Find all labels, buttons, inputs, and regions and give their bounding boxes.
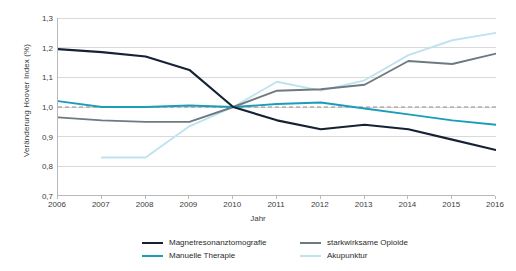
x-tick-label: 2015	[442, 200, 460, 209]
x-tick-mark	[407, 196, 408, 199]
x-tick-mark	[495, 196, 496, 199]
x-tick-label: 2009	[179, 200, 197, 209]
series-line	[58, 49, 496, 150]
x-tick-mark	[320, 196, 321, 199]
x-tick-label: 2011	[267, 200, 284, 209]
x-axis-ticks: 2006200720082009201020112012201320142015…	[57, 196, 495, 216]
x-tick-label: 2008	[136, 200, 154, 209]
x-tick-mark	[364, 196, 365, 199]
y-tick-label: 1,3	[42, 14, 53, 23]
series-line	[58, 54, 496, 122]
legend-item[interactable]: Akupunktur	[300, 249, 408, 262]
legend-item-label: Akupunktur	[327, 252, 367, 260]
legend-item-label: Magnetresonanztomografie	[169, 239, 266, 247]
x-tick-label: 2006	[48, 200, 66, 209]
x-tick-mark	[188, 196, 189, 199]
x-tick-mark	[57, 196, 58, 199]
legend-swatch-icon	[300, 242, 321, 244]
y-tick-label: 1,2	[42, 43, 53, 52]
y-tick-label: 1,1	[42, 73, 53, 82]
chart-legend: MagnetresonanztomografieManuelle Therapi…	[0, 236, 516, 266]
series-line	[102, 33, 496, 158]
legend-item-label: starkwirksame Opioide	[327, 239, 408, 247]
legend-swatch-icon	[142, 242, 163, 244]
y-tick-label: 1,0	[42, 103, 53, 112]
x-tick-mark	[101, 196, 102, 199]
x-tick-label: 2016	[486, 200, 504, 209]
legend-column-left: MagnetresonanztomografieManuelle Therapi…	[142, 236, 266, 262]
plot-area	[57, 18, 495, 196]
legend-item-label: Manuelle Therapie	[169, 252, 235, 260]
x-tick-mark	[145, 196, 146, 199]
x-tick-label: 2013	[355, 200, 373, 209]
legend-item[interactable]: starkwirksame Opioide	[300, 236, 408, 249]
chart-container: Veränderung Hoover Index (%) 1,31,21,11,…	[0, 0, 516, 271]
x-tick-mark	[276, 196, 277, 199]
legend-swatch-icon	[300, 255, 321, 257]
y-tick-label: 0,8	[42, 162, 53, 171]
legend-column-right: starkwirksame OpioideAkupunktur	[300, 236, 408, 262]
x-tick-label: 2007	[92, 200, 110, 209]
x-tick-label: 2012	[311, 200, 329, 209]
x-axis-title: Jahr	[0, 214, 516, 223]
y-axis-ticks: 1,31,21,11,00,90,80,7	[0, 0, 57, 196]
legend-item[interactable]: Magnetresonanztomografie	[142, 236, 266, 249]
x-tick-label: 2010	[223, 200, 241, 209]
series-lines	[58, 18, 496, 196]
x-tick-label: 2014	[398, 200, 416, 209]
x-tick-mark	[451, 196, 452, 199]
legend-swatch-icon	[142, 255, 163, 257]
legend-item[interactable]: Manuelle Therapie	[142, 249, 266, 262]
x-tick-mark	[232, 196, 233, 199]
y-tick-label: 0,9	[42, 132, 53, 141]
